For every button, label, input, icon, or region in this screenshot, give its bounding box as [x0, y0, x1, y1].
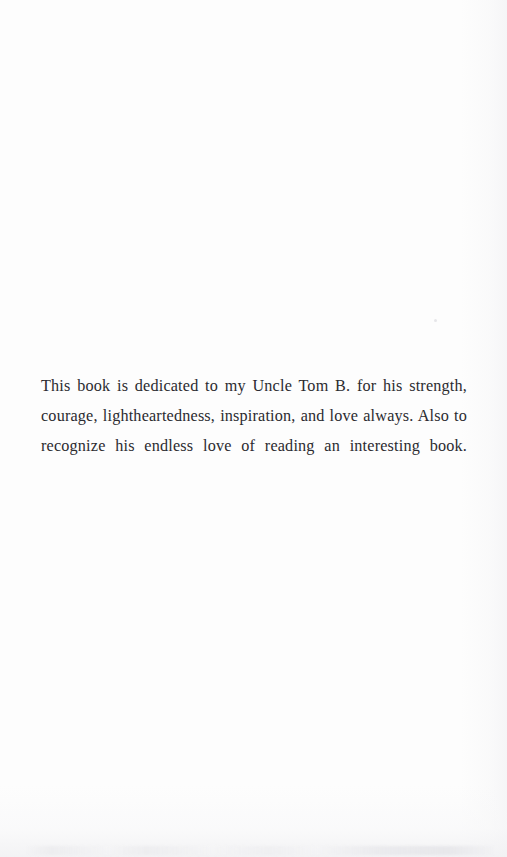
scanned-page: This book is dedicated to my Uncle Tom B… — [0, 0, 507, 857]
scan-edge-shading-bottom — [0, 785, 507, 857]
scan-speck-artifact — [434, 319, 437, 322]
scan-edge-shading-right — [461, 0, 507, 857]
scan-smudge-artifact — [24, 846, 494, 855]
dedication-block: This book is dedicated to my Uncle Tom B… — [41, 371, 467, 491]
dedication-text: This book is dedicated to my Uncle Tom B… — [41, 371, 467, 491]
